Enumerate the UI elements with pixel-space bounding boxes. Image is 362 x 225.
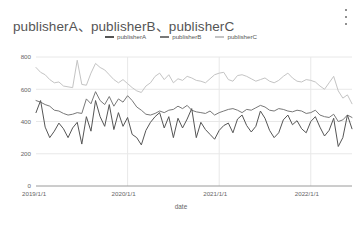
y-tick-label: 400 — [21, 118, 32, 125]
y-tick-label: 200 — [21, 150, 32, 157]
x-axis-title: date — [0, 203, 362, 210]
chart-svg: 0200400600800 2019/1/12020/1/12021/1/120… — [0, 0, 362, 225]
series-lines — [36, 60, 352, 146]
y-tick-label: 800 — [21, 53, 32, 60]
x-tick-label: 2021/1/1 — [203, 190, 228, 197]
plot-area: 0200400600800 2019/1/12020/1/12021/1/120… — [0, 0, 362, 225]
x-tick-label: 2020/1/1 — [112, 190, 137, 197]
series-line-publisherB — [36, 92, 352, 122]
x-axis-tick-labels: 2019/1/12020/1/12021/1/12022/1/1 — [22, 190, 319, 197]
chart-card: publisherA、publisherB、publisherC publish… — [0, 0, 362, 225]
x-tick-label: 2019/1/1 — [22, 190, 47, 197]
y-tick-label: 600 — [21, 86, 32, 93]
series-line-publisherC — [36, 60, 352, 104]
y-axis-tick-labels: 0200400600800 — [21, 53, 32, 189]
x-tick-label: 2022/1/1 — [295, 190, 320, 197]
y-tick-label: 0 — [28, 182, 32, 189]
